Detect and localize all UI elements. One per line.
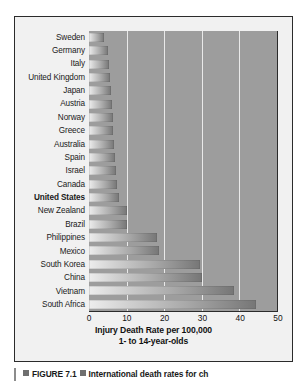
category-label: Spain: [15, 151, 89, 164]
category-label: United States: [15, 192, 89, 205]
plot-area: [89, 31, 278, 312]
caption-label: FIGURE 7.1: [32, 369, 77, 379]
bar-row: [89, 138, 277, 151]
category-label: Germany: [15, 44, 89, 57]
category-label: Italy: [15, 58, 89, 71]
bar: [89, 113, 113, 122]
category-label: Philippines: [15, 232, 89, 245]
bar-row: [89, 98, 277, 111]
bar: [89, 206, 127, 215]
bar: [89, 220, 127, 229]
bar-row: [89, 84, 277, 97]
bar: [89, 193, 119, 202]
bar-row: [89, 231, 277, 244]
category-label: Canada: [15, 178, 89, 191]
value-tick-label: 50: [273, 313, 282, 323]
category-label: Austria: [15, 98, 89, 111]
bar-row: [89, 258, 277, 271]
bar: [89, 286, 234, 295]
bar: [89, 140, 114, 149]
bar-series: [89, 31, 277, 311]
bar-row: [89, 284, 277, 297]
category-label: China: [15, 272, 89, 285]
category-label: Norway: [15, 111, 89, 124]
square-bullet-icon: [23, 370, 29, 376]
category-label: United Kingdom: [15, 71, 89, 84]
bar-row: [89, 298, 277, 311]
category-label: New Zealand: [15, 205, 89, 218]
bar-row: [89, 31, 277, 44]
bar: [89, 126, 113, 135]
figure-caption: FIGURE 7.1International death rates for …: [14, 368, 299, 382]
bar-row: [89, 218, 277, 231]
bar-row: [89, 191, 277, 204]
bar-row: [89, 204, 277, 217]
axis-title-secondary: 1- to 14-year-olds: [15, 336, 292, 347]
category-label: Australia: [15, 138, 89, 151]
caption-rule: [14, 368, 16, 381]
value-tick-label: 40: [236, 313, 245, 323]
bar: [89, 153, 115, 162]
bar: [89, 60, 109, 69]
bar-row: [89, 244, 277, 257]
category-label: Mexico: [15, 245, 89, 258]
bar-row: [89, 44, 277, 57]
caption-text: FIGURE 7.1International death rates for …: [23, 368, 208, 380]
axis-title-primary: Injury Death Rate per 100,000: [15, 325, 292, 336]
figure-panel: SwedenGermanyItalyUnited KingdomJapanAus…: [14, 16, 293, 362]
value-tick-label: 30: [198, 313, 207, 323]
bar: [89, 86, 111, 95]
bar: [89, 73, 110, 82]
category-label: Greece: [15, 125, 89, 138]
value-tick-label: 10: [122, 313, 131, 323]
bar: [89, 33, 104, 42]
bar: [89, 46, 108, 55]
bar-row: [89, 151, 277, 164]
bar: [89, 233, 157, 242]
value-axis: 01020304050: [89, 312, 278, 325]
value-tick-label: 20: [160, 313, 169, 323]
bar-row: [89, 58, 277, 71]
category-label: Israel: [15, 165, 89, 178]
bar: [89, 180, 117, 189]
category-label: South Africa: [15, 299, 89, 312]
bar: [89, 166, 116, 175]
square-bullet-icon-2: [80, 370, 86, 376]
bar-row: [89, 178, 277, 191]
bar-row: [89, 271, 277, 284]
bar-row: [89, 124, 277, 137]
bar: [89, 246, 159, 255]
category-label: Brazil: [15, 218, 89, 231]
bar: [89, 100, 112, 109]
bar: [89, 300, 256, 309]
category-label: Sweden: [15, 31, 89, 44]
caption-title: International death rates for ch: [89, 369, 209, 379]
bar-chart: SwedenGermanyItalyUnited KingdomJapanAus…: [15, 17, 292, 361]
category-axis: SwedenGermanyItalyUnited KingdomJapanAus…: [15, 31, 89, 312]
bar-row: [89, 164, 277, 177]
bar-row: [89, 111, 277, 124]
axis-title-group: Injury Death Rate per 100,000 1- to 14-y…: [15, 325, 292, 347]
bar: [89, 260, 200, 269]
value-tick-label: 0: [87, 313, 92, 323]
category-label: Vietnam: [15, 285, 89, 298]
category-label: South Korea: [15, 258, 89, 271]
bar: [89, 273, 202, 282]
category-label: Japan: [15, 85, 89, 98]
bar-row: [89, 71, 277, 84]
